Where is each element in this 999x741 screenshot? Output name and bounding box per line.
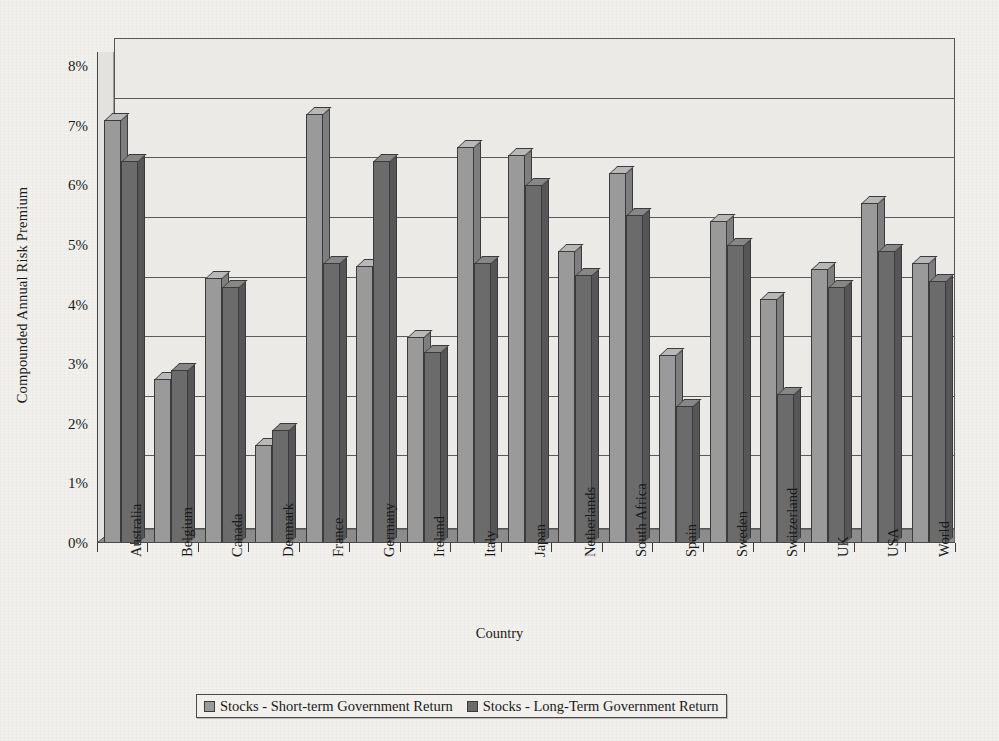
bar-side-face bbox=[390, 156, 397, 543]
bar-front-face bbox=[929, 281, 946, 543]
bar-front-face bbox=[659, 355, 676, 543]
bar-group bbox=[854, 52, 904, 543]
bar bbox=[727, 245, 744, 543]
bar bbox=[525, 185, 542, 543]
bar-front-face bbox=[222, 287, 239, 543]
bar-front-face bbox=[811, 269, 828, 543]
bar-front-face bbox=[205, 278, 222, 543]
bar-side-face bbox=[693, 400, 700, 543]
bar bbox=[373, 161, 390, 543]
bar-group bbox=[147, 52, 197, 543]
y-tick-label: 0% bbox=[42, 535, 88, 552]
bar bbox=[104, 120, 121, 543]
x-tick-mark bbox=[400, 543, 401, 552]
bar bbox=[121, 161, 138, 543]
bar bbox=[457, 147, 474, 544]
x-tick-label: Germany bbox=[381, 503, 398, 557]
bar-front-face bbox=[457, 147, 474, 544]
x-tick-label: Netherlands bbox=[582, 487, 599, 557]
bar bbox=[861, 203, 878, 543]
x-tick-label: South Africa bbox=[633, 483, 650, 557]
bar bbox=[255, 445, 272, 543]
bar-side-face bbox=[895, 245, 902, 543]
x-tick-label: World bbox=[936, 521, 953, 557]
x-tick-mark bbox=[652, 543, 653, 552]
bar-front-face bbox=[760, 299, 777, 543]
x-tick-label: USA bbox=[885, 528, 902, 557]
x-axis: AustraliaBelgiumCanadaDenmarkFranceGerma… bbox=[97, 543, 955, 663]
x-tick-mark bbox=[248, 543, 249, 552]
bar-group bbox=[198, 52, 248, 543]
bar-front-face bbox=[861, 203, 878, 543]
bar-group bbox=[450, 52, 500, 543]
y-tick-label: 5% bbox=[42, 236, 88, 253]
y-tick-label: 6% bbox=[42, 177, 88, 194]
x-tick-label: Sweden bbox=[734, 511, 751, 557]
bar-front-face bbox=[373, 161, 390, 543]
x-tick-mark bbox=[905, 543, 906, 552]
x-tick-label: Belgium bbox=[179, 507, 196, 557]
bar-side-face bbox=[340, 257, 347, 543]
plot-area bbox=[97, 52, 955, 543]
bar-front-face bbox=[508, 155, 525, 543]
bar-front-face bbox=[323, 263, 340, 543]
x-tick-label: Canada bbox=[229, 514, 246, 557]
y-tick-label: 2% bbox=[42, 415, 88, 432]
x-tick-label: Switzerland bbox=[784, 488, 801, 557]
bar-front-face bbox=[154, 379, 171, 543]
bar-side-face bbox=[946, 275, 953, 543]
x-tick-mark bbox=[97, 543, 98, 552]
bar-front-face bbox=[710, 221, 727, 543]
x-tick-mark bbox=[955, 543, 956, 552]
bar bbox=[710, 221, 727, 543]
bar-front-face bbox=[121, 161, 138, 543]
bar bbox=[508, 155, 525, 543]
bar-group bbox=[299, 52, 349, 543]
bar bbox=[912, 263, 929, 543]
bar bbox=[323, 263, 340, 543]
x-tick-mark bbox=[349, 543, 350, 552]
bar-front-face bbox=[727, 245, 744, 543]
legend-label: Stocks - Long-Term Government Return bbox=[483, 698, 719, 715]
legend-swatch-icon bbox=[467, 701, 478, 712]
legend-item-short-term: Stocks - Short-term Government Return bbox=[204, 698, 453, 715]
bar-front-face bbox=[676, 406, 693, 543]
bar-side-face bbox=[542, 180, 549, 543]
bar-group bbox=[753, 52, 803, 543]
legend-item-long-term: Stocks - Long-Term Government Return bbox=[467, 698, 719, 715]
x-tick-label: UK bbox=[835, 536, 852, 557]
bar-side-face bbox=[138, 156, 145, 543]
bar-side-face bbox=[441, 347, 448, 543]
bar-side-face bbox=[491, 257, 498, 543]
x-axis-title: Country bbox=[0, 625, 999, 642]
x-tick-mark bbox=[299, 543, 300, 552]
x-tick-mark bbox=[198, 543, 199, 552]
bar-front-face bbox=[306, 114, 323, 543]
bar bbox=[407, 337, 424, 543]
legend-label: Stocks - Short-term Government Return bbox=[220, 698, 453, 715]
x-tick-label: Japan bbox=[532, 524, 549, 557]
bar-front-face bbox=[558, 251, 575, 543]
bar bbox=[878, 251, 895, 543]
x-tick-mark bbox=[147, 543, 148, 552]
bar-front-face bbox=[356, 266, 373, 543]
bar-group bbox=[804, 52, 854, 543]
bar-group bbox=[703, 52, 753, 543]
bar-front-face bbox=[407, 337, 424, 543]
bar bbox=[205, 278, 222, 543]
y-tick-label: 1% bbox=[42, 475, 88, 492]
bar bbox=[306, 114, 323, 543]
bar bbox=[828, 287, 845, 543]
bar-group bbox=[905, 52, 955, 543]
bar bbox=[659, 355, 676, 543]
x-tick-label: France bbox=[330, 518, 347, 557]
bar-group bbox=[652, 52, 702, 543]
bar-group bbox=[551, 52, 601, 543]
x-tick-label: Spain bbox=[683, 524, 700, 557]
bar bbox=[609, 173, 626, 543]
bar-side-face bbox=[744, 239, 751, 543]
y-tick-label: 4% bbox=[42, 296, 88, 313]
x-tick-label: Australia bbox=[128, 504, 145, 557]
x-tick-mark bbox=[450, 543, 451, 552]
bar-front-face bbox=[828, 287, 845, 543]
